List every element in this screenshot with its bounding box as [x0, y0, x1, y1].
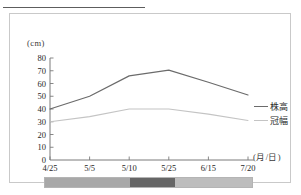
legend-item-1[interactable]: 株高	[254, 99, 301, 113]
y-axis-unit-label: (cm)	[27, 38, 45, 48]
legend-label: 冠幅	[270, 114, 288, 127]
x-axis-unit-label: (月/日)	[253, 150, 281, 162]
y-tick-label: 20	[28, 131, 46, 140]
x-tick-label: 7/20	[233, 164, 263, 173]
y-tick-label: 50	[28, 92, 46, 101]
x-tick-label: 5/25	[154, 164, 184, 173]
segment-dark-middle	[130, 178, 176, 187]
y-tick-label: 30	[28, 118, 46, 127]
line-chart-svg	[50, 58, 248, 160]
legend-line-swatch-icon	[254, 106, 268, 107]
series-line-1	[50, 70, 248, 109]
top-divider-rule	[3, 7, 145, 8]
y-tick-label: 10	[28, 143, 46, 152]
series-line-2	[50, 109, 248, 122]
segment-light-right	[175, 178, 252, 187]
chart-panel: (cm) (月/日) 80706050403020100 4/255/55/10…	[9, 13, 291, 183]
legend-label: 株高	[270, 100, 288, 113]
x-tick-label: 5/10	[114, 164, 144, 173]
y-tick-label: 80	[28, 54, 46, 63]
chart-legend: 株高冠幅	[254, 99, 301, 127]
plot-area	[50, 58, 248, 160]
bottom-color-bar	[44, 177, 253, 188]
x-tick-label: 5/5	[75, 164, 105, 173]
x-tick-label: 6/15	[193, 164, 223, 173]
legend-line-swatch-icon	[254, 120, 268, 121]
segment-light-left	[45, 178, 130, 187]
series-group	[50, 70, 248, 122]
x-tick-label: 4/25	[35, 164, 65, 173]
chart-screenshot: (cm) (月/日) 80706050403020100 4/255/55/10…	[0, 0, 301, 195]
y-tick-label: 70	[28, 67, 46, 76]
legend-item-2[interactable]: 冠幅	[254, 113, 301, 127]
y-tick-label: 40	[28, 105, 46, 114]
y-tick-label: 60	[28, 80, 46, 89]
